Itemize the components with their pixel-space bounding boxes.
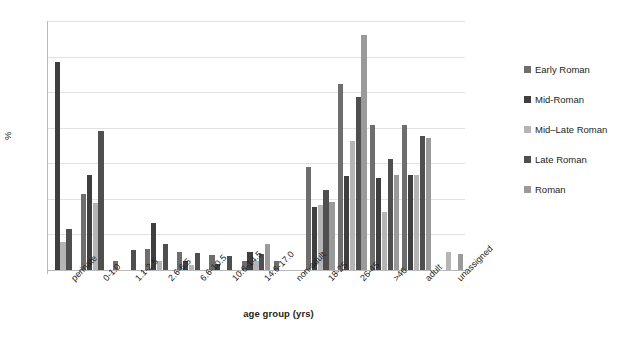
x-tick-label: 2.6-6.5 [166,276,173,283]
bar [131,250,136,270]
x-tick-label: >46 [391,276,398,283]
bar [350,141,355,270]
bar-group [111,21,143,270]
bar [402,125,407,270]
bar [408,175,413,270]
bar [394,175,399,270]
legend-label: Mid–Late Roman [535,124,607,135]
bar [98,131,103,270]
bar [361,35,366,270]
bar [227,256,232,270]
legend-item: Mid-Roman [524,84,616,114]
legend-swatch-icon [524,156,531,163]
x-tick-label: 14.6-17.0 [262,276,269,283]
bar [306,167,311,270]
chart-figure: % 05101520253035 perinate0-1.01.1-2.52.6… [0,0,617,343]
bar [66,229,71,270]
bar-group [304,21,336,270]
bar [388,159,393,270]
bar-group [79,21,111,270]
bar [420,136,425,270]
chart-legend: Early RomanMid-RomanMid–Late RomanLate R… [524,54,616,204]
x-tick-label: 10.6-14.5 [230,276,237,283]
bar [446,252,451,270]
bar-group [336,21,368,270]
bar-group [143,21,175,270]
x-axis-title-text: age group (yrs) [243,308,314,319]
legend-item: Early Roman [524,54,616,84]
bar [426,138,431,270]
x-tick-label: perinate [69,276,76,283]
bar [60,242,65,270]
bar-group [368,21,400,270]
bar [338,84,343,270]
bar [55,62,60,270]
bar-group [208,21,240,270]
bar-group [401,21,433,270]
bar [344,176,349,270]
x-tick-label: 1.1-2.5 [133,276,140,283]
x-axis-title: age group (yrs) [0,308,617,319]
bar [382,212,387,270]
legend-swatch-icon [524,126,531,133]
legend-item: Mid–Late Roman [524,114,616,144]
bar [356,97,361,270]
x-tick-label: 18-25 [326,276,333,283]
legend-label: Late Roman [535,154,587,165]
plot-area [47,21,465,270]
y-axis-title: % [2,132,13,140]
bar-groups [47,21,465,270]
bar [195,253,200,270]
bar-group [272,21,304,270]
x-tick-label: non-adult [294,276,301,283]
bar-group [240,21,272,270]
bar [414,175,419,270]
legend-label: Early Roman [535,64,590,75]
bar-group [176,21,208,270]
x-tick-label: adult [423,276,430,283]
bar [329,202,334,270]
bar-group [433,21,465,270]
legend-swatch-icon [524,96,531,103]
x-tick-label: 26-45 [358,276,365,283]
x-tick-label: 0-1.0 [101,276,108,283]
bar [376,178,381,270]
bar-group [47,21,79,270]
x-tick-label: unassigned [455,276,462,283]
legend-swatch-icon [524,66,531,73]
bar [265,244,270,270]
legend-item: Late Roman [524,144,616,174]
legend-label: Roman [535,184,566,195]
bar [163,244,168,270]
legend-label: Mid-Roman [535,94,584,105]
legend-item: Roman [524,174,616,204]
bar [370,125,375,270]
legend-swatch-icon [524,186,531,193]
x-tick-label: 6.6-10.5 [198,276,205,283]
